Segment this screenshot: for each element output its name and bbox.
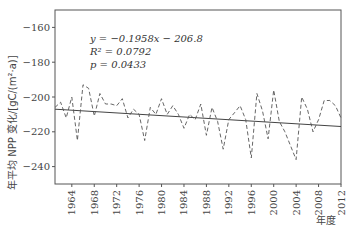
y-axis-label: 年平均 NPP 变化/[gC/(m²·a)]	[6, 55, 18, 190]
x-tick-label: 1984	[178, 190, 189, 215]
x-tick-label: 2000	[268, 190, 279, 215]
npp-series-line	[55, 85, 341, 160]
x-tick-label: 2008	[313, 190, 324, 215]
regression-equation: y = −0.1958x − 206.8	[89, 33, 203, 44]
x-tick-label: 2004	[291, 190, 302, 215]
y-tick-label: −220	[23, 126, 50, 137]
x-tick-label: 1996	[246, 190, 257, 215]
x-tick-label: 1968	[89, 190, 100, 215]
y-tick-label: −160	[23, 22, 50, 33]
x-tick-label: 1972	[111, 190, 122, 215]
x-tick-label: 1976	[134, 190, 145, 215]
x-tick-label: 1988	[201, 190, 212, 215]
x-tick-label: 1992	[223, 190, 234, 215]
y-tick-label: −200	[23, 92, 50, 103]
x-tick-label: 2012	[336, 190, 347, 215]
y-tick-label: −180	[23, 57, 50, 68]
x-tick-label: 1980	[156, 190, 167, 215]
y-axis-ticks: −160−180−200−220−240	[23, 22, 55, 172]
x-tick-label: 1964	[66, 190, 77, 215]
x-axis-ticks: 1964196819721976198019841988199219962000…	[66, 184, 346, 215]
r-squared-label: R² = 0.0792	[89, 46, 151, 57]
x-axis-label: 年度	[316, 214, 336, 226]
y-tick-label: −240	[23, 161, 50, 172]
npp-line-chart: −160−180−200−220−240 1964196819721976198…	[0, 0, 356, 235]
p-value-label: p = 0.0433	[90, 59, 146, 70]
